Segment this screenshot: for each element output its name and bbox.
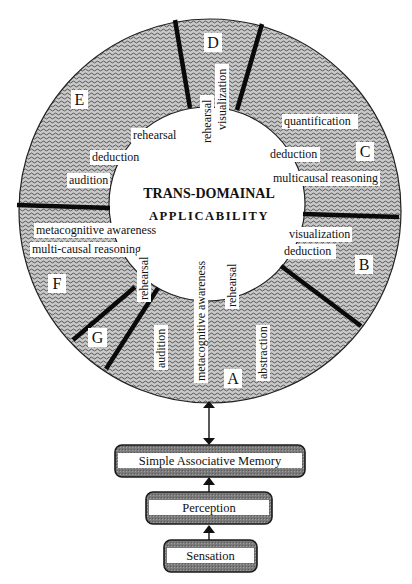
arrow-perception-to-memory [203, 477, 215, 492]
svg-text:abstraction: abstraction [256, 326, 270, 379]
svg-text:B: B [359, 256, 370, 273]
simple-associative-memory-box: Simple Associative Memory [115, 445, 305, 477]
svg-text:audition: audition [154, 329, 168, 368]
svg-text:rehearsal: rehearsal [200, 99, 214, 143]
divider-e-f [17, 205, 110, 208]
svg-text:rehearsal: rehearsal [225, 263, 239, 307]
sector-g-skills: rehearsal [137, 252, 151, 302]
svg-text:deduction: deduction [270, 147, 317, 161]
svg-text:deduction: deduction [284, 244, 331, 258]
divider-b-c [303, 214, 399, 217]
svg-text:D: D [207, 34, 219, 51]
sector-label-f: F [48, 274, 66, 293]
svg-text:multicausal reasoning: multicausal reasoning [273, 171, 378, 185]
svg-text:rehearsal: rehearsal [133, 128, 177, 142]
svg-text:APPLICABILITY: APPLICABILITY [149, 209, 269, 223]
perception-box: Perception [146, 492, 272, 524]
svg-text:quantification: quantification [284, 114, 351, 128]
svg-text:deduction: deduction [92, 150, 139, 164]
svg-text:metacognitive awareness: metacognitive awareness [36, 223, 157, 237]
arrow-sensation-to-perception [203, 525, 215, 540]
sector-label-e: E [71, 90, 88, 109]
center-title: TRANS-DOMAINAL APPLICABILITY [143, 186, 274, 223]
bidirectional-arrow [203, 401, 215, 445]
trans-domainal-diagram: D E C B F G A TRANS-DOMAINAL APPLICABIL [0, 0, 412, 584]
svg-text:visualization: visualization [215, 69, 229, 130]
svg-text:multi-causal reasoning: multi-causal reasoning [32, 242, 141, 256]
svg-text:E: E [75, 91, 85, 108]
svg-text:audition: audition [69, 173, 108, 187]
sensation-box: Sensation [164, 540, 257, 572]
svg-text:F: F [53, 275, 62, 292]
sector-label-b: B [355, 255, 373, 274]
svg-text:visualization: visualization [289, 227, 350, 241]
svg-text:C: C [360, 143, 371, 160]
svg-text:Sensation: Sensation [186, 549, 235, 563]
svg-text:A: A [227, 370, 239, 387]
sector-label-a: A [224, 369, 242, 388]
sector-label-c: C [356, 142, 374, 161]
sector-label-d: D [204, 33, 222, 52]
svg-text:rehearsal: rehearsal [137, 256, 151, 300]
svg-text:Simple Associative Memory: Simple Associative Memory [139, 454, 282, 468]
svg-text:metacognitive awareness: metacognitive awareness [194, 260, 208, 381]
svg-text:G: G [92, 329, 104, 346]
svg-text:TRANS-DOMAINAL: TRANS-DOMAINAL [143, 186, 274, 201]
sector-label-g: G [88, 328, 107, 347]
svg-text:Perception: Perception [182, 501, 236, 515]
